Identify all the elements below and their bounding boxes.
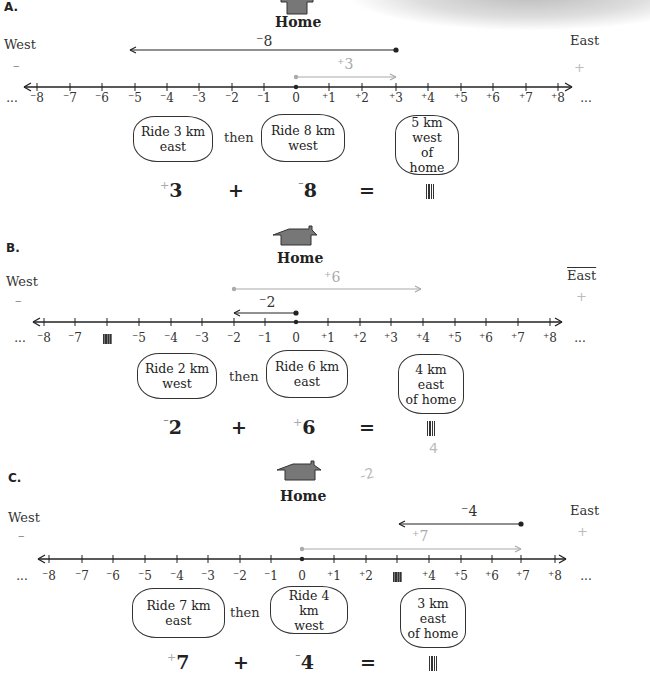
plus-operator: + (231, 416, 247, 438)
tick-label: ⁻5 (127, 331, 151, 345)
tick-label: ⁺3 (384, 91, 408, 105)
answer-blank[interactable] (426, 184, 436, 199)
number-line-c (0, 515, 606, 570)
tick-label: ⁺7 (514, 91, 538, 105)
cloud-text: west (402, 130, 452, 145)
tick-label: ⁻5 (133, 569, 157, 583)
cloud-text: of home (405, 392, 457, 407)
tick-label: ⁻2 (220, 91, 244, 105)
sign: + (167, 651, 176, 664)
tick-label: ⁻8 (32, 331, 56, 345)
cloud-ride-2: Ride 8 km west (261, 114, 345, 162)
answer-blank[interactable] (429, 656, 439, 671)
ellipsis-right: ... (568, 331, 592, 345)
ellipsis-left: ... (8, 331, 32, 345)
tick-label: ⁺4 (417, 569, 441, 583)
tick-label: 0 (284, 331, 308, 345)
tick-label: ⁺3 (379, 331, 403, 345)
tick-label: ⁺1 (322, 569, 346, 583)
cloud-text: 4 km (405, 362, 457, 377)
section-label: C. (8, 471, 21, 485)
addend-b: 4 (301, 651, 314, 673)
equals-sign: = (359, 416, 375, 438)
tick-label: ⁺6 (481, 91, 505, 105)
tick-label: ⁺8 (546, 91, 570, 105)
tick-label: ⁺1 (317, 91, 341, 105)
tick-label: ⁺5 (449, 569, 473, 583)
cloud-text: east (273, 374, 341, 389)
answer-blank[interactable] (427, 421, 437, 436)
then-label: then (230, 605, 260, 620)
equation: ⁻2 + +6 = (163, 416, 463, 440)
tick-label: ⁺4 (416, 91, 440, 105)
tick-label: ⁻1 (252, 91, 276, 105)
tick-label: ⁻6 (90, 91, 114, 105)
addend-a: 3 (169, 179, 182, 201)
cloud-ride-2: Ride 6 km east (266, 350, 348, 398)
tick-label: ⁻1 (253, 331, 277, 345)
equals-sign: = (360, 651, 376, 673)
ellipsis-left: ... (10, 569, 34, 583)
equation: +7 + ⁻4 = (167, 651, 467, 675)
tick-label: ⁻3 (187, 91, 211, 105)
plus-operator: + (233, 651, 249, 673)
home-label: Home (277, 250, 323, 266)
tick-label: ⁺8 (543, 569, 567, 583)
cloud-ride-1: Ride 2 km west (137, 353, 217, 399)
cloud-text: of home (402, 145, 452, 175)
sign: + (160, 179, 169, 192)
cloud-text: Ride 3 km (140, 124, 206, 139)
then-label: then (229, 369, 259, 384)
tick-label: ⁻2 (228, 569, 252, 583)
cloud-result: 3 km east of home (400, 588, 466, 648)
equation: +3 + ⁻8 = (160, 179, 460, 203)
tick-label: ⁺2 (348, 331, 372, 345)
addend-a: 7 (176, 651, 189, 673)
cloud-text: east (407, 611, 459, 626)
cloud-text: east (405, 377, 457, 392)
cloud-text: east (139, 613, 218, 628)
scan-shading (350, 0, 650, 30)
then-label: then (224, 130, 254, 145)
tick-label: ⁻3 (190, 331, 214, 345)
home-label: Home (280, 488, 326, 504)
tick-label: ⁺5 (443, 331, 467, 345)
addend-a: 2 (169, 416, 182, 438)
tick-label: ⁻2 (222, 331, 246, 345)
cloud-text: Ride 2 km (144, 361, 210, 376)
tick-label: ⁺2 (354, 569, 378, 583)
addend-b: 6 (302, 416, 315, 438)
cloud-text: Ride 8 km (268, 123, 338, 138)
cloud-text: east (140, 139, 206, 154)
cloud-text: west (277, 618, 341, 633)
tick-label: ⁺8 (538, 331, 562, 345)
ellipsis-right: ... (574, 91, 598, 105)
plus-operator: + (228, 179, 244, 201)
cloud-result: 5 km west of home (395, 115, 459, 175)
equals-sign: = (359, 179, 375, 201)
cloud-text: of home (407, 626, 459, 641)
ellipsis-right: ... (574, 569, 598, 583)
tick-label: ⁻7 (63, 331, 87, 345)
cloud-result: 4 km east of home (398, 354, 464, 414)
missing-tick-box[interactable] (103, 334, 112, 344)
tick-label: 0 (290, 569, 314, 583)
ellipsis-left: ... (0, 91, 24, 105)
tick-label: ⁺5 (449, 91, 473, 105)
cloud-text: Ride 6 km (273, 359, 341, 374)
missing-tick-box[interactable] (393, 572, 402, 582)
section-label: B. (6, 241, 20, 255)
cloud-text: 3 km (407, 596, 459, 611)
cloud-ride-1: Ride 7 km east (132, 588, 225, 638)
handwritten-mark: -2 (358, 464, 376, 483)
addend-b: 8 (304, 179, 317, 201)
tick-label: ⁻4 (155, 91, 179, 105)
tick-label: ⁺6 (480, 569, 504, 583)
tick-label: ⁻3 (196, 569, 220, 583)
cloud-ride-2: Ride 4 km west (270, 586, 348, 634)
tick-label: 0 (284, 91, 308, 105)
tick-label: ⁻8 (25, 91, 49, 105)
house-icon (275, 460, 323, 482)
section-label: A. (4, 0, 18, 14)
tick-label: ⁺4 (411, 331, 435, 345)
